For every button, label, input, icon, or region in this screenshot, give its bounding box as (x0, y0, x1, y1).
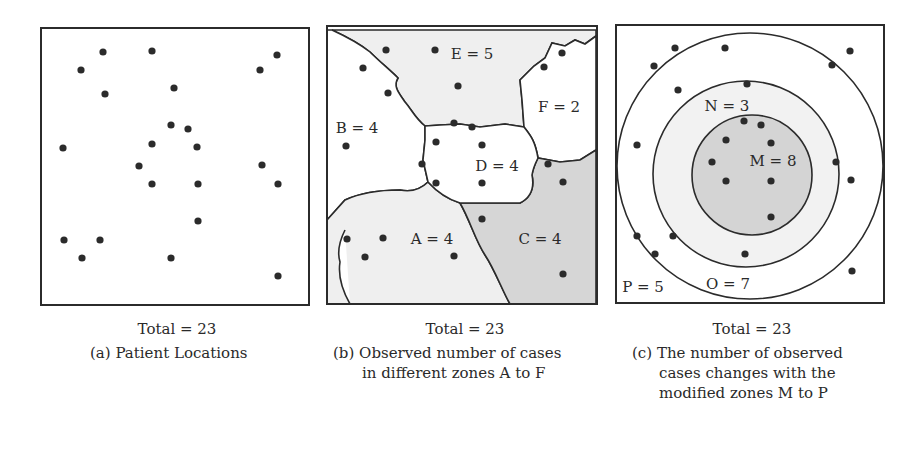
patient-dot (450, 252, 457, 259)
patient-dot (99, 48, 106, 55)
panel-c-caption-line-1: The number of observed (657, 344, 843, 362)
patient-dot (273, 51, 280, 58)
patient-dot (478, 215, 485, 222)
patient-dot (258, 161, 265, 168)
patient-dot (167, 121, 174, 128)
patient-dot (454, 82, 461, 89)
patient-dot (256, 66, 263, 73)
panel-c-modified-zones: N = 3M = 8P = 5O = 7 (616, 25, 884, 303)
zone-label: P = 5 (622, 278, 664, 296)
zone-label: M = 8 (749, 152, 796, 170)
patient-dot (60, 236, 67, 243)
patient-dot (379, 234, 386, 241)
zone-label: F = 2 (538, 98, 580, 116)
panel-c-caption-line-3: modified zones M to P (632, 383, 843, 403)
patient-dot (274, 272, 281, 279)
patient-dot (478, 179, 485, 186)
panel-a-caption: (a) Patient Locations (90, 343, 248, 363)
patient-dot (193, 143, 200, 150)
patient-dot (721, 44, 728, 51)
zone-label: E = 5 (451, 45, 494, 63)
patient-dot (767, 213, 774, 220)
panel-c-caption: (c) The number of observed cases changes… (632, 343, 843, 403)
patient-dot (96, 236, 103, 243)
panel-b-total: Total = 23 (325, 320, 605, 338)
patient-dot (432, 138, 439, 145)
patient-dot (184, 125, 191, 132)
patient-dot (558, 49, 565, 56)
patient-dot (274, 180, 281, 187)
patient-dot (846, 47, 853, 54)
patient-dot (674, 86, 681, 93)
panel-b-zones: E = 5F = 2B = 4D = 4A = 4C = 4 (327, 26, 597, 304)
patient-dot (767, 139, 774, 146)
patient-dot (418, 160, 425, 167)
patient-dot (650, 62, 657, 69)
patient-dot (828, 61, 835, 68)
panel-a-total: Total = 23 (37, 320, 317, 338)
patient-dot (832, 158, 839, 165)
patient-dot (767, 177, 774, 184)
patient-dot (468, 123, 475, 130)
panel-b-caption: (b) Observed number of cases in differen… (333, 343, 561, 383)
patient-dot (847, 176, 854, 183)
patient-dot (194, 180, 201, 187)
patient-dot (671, 44, 678, 51)
patient-dot (361, 253, 368, 260)
patient-dot (478, 141, 485, 148)
patient-dot (359, 64, 366, 71)
patient-dot (757, 121, 764, 128)
patient-dot (148, 47, 155, 54)
patient-dot (743, 80, 750, 87)
panel-c-caption-line-2: cases changes with the (632, 363, 843, 383)
zone-label: A = 4 (410, 230, 453, 248)
panel-b-caption-line-2: in different zones A to F (333, 363, 561, 383)
zone-label: D = 4 (475, 157, 519, 175)
patient-dot (559, 178, 566, 185)
patient-dot (722, 177, 729, 184)
patient-dot (342, 142, 349, 149)
patient-dot (431, 46, 438, 53)
patient-dot (559, 270, 566, 277)
panel-b-caption-tag: (b) (333, 343, 354, 363)
zone-label: N = 3 (705, 97, 750, 115)
patient-dot (741, 250, 748, 257)
zone-label: B = 4 (336, 119, 379, 137)
patient-dot (540, 63, 547, 70)
patient-dot (167, 254, 174, 261)
patient-dot (722, 136, 729, 143)
patient-dot (740, 117, 747, 124)
panel-c-total: Total = 23 (612, 320, 892, 338)
panel-b-caption-line-1: Observed number of cases (359, 344, 561, 362)
patient-dot (633, 232, 640, 239)
patient-dot (59, 144, 66, 151)
patient-dot (848, 267, 855, 274)
patient-dot (135, 162, 142, 169)
patient-dot (450, 119, 457, 126)
patient-dot (544, 160, 551, 167)
patient-dot (651, 250, 658, 257)
patient-dot (343, 235, 350, 242)
patient-dot (148, 140, 155, 147)
panel-a-patient-locations (41, 28, 309, 305)
zone-label: C = 4 (518, 230, 561, 248)
patient-dot (148, 180, 155, 187)
patient-dot (432, 179, 439, 186)
patient-dot (78, 254, 85, 261)
patient-dot (708, 158, 715, 165)
panel-a-caption-line-1: Patient Locations (115, 344, 247, 362)
patient-dot (170, 84, 177, 91)
patient-dot (669, 232, 676, 239)
panel-a-caption-tag: (a) (90, 343, 111, 363)
zone-m-inner-circle (692, 115, 812, 235)
patient-dot (194, 217, 201, 224)
zone-label: O = 7 (706, 275, 750, 293)
panel-c-caption-tag: (c) (632, 343, 652, 363)
patient-dot (633, 141, 640, 148)
patient-dot (77, 66, 84, 73)
patient-dot (384, 89, 391, 96)
patient-dot (101, 90, 108, 97)
patient-dot (382, 46, 389, 53)
